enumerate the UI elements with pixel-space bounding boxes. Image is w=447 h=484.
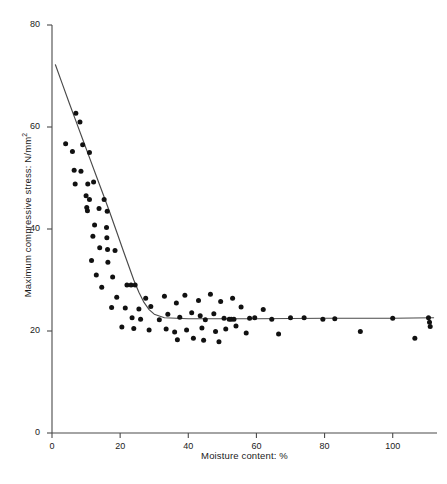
x-tick-label: 40 — [176, 441, 200, 451]
x-tick-label: 80 — [313, 441, 337, 451]
y-tick-label: 20 — [18, 325, 40, 335]
y-tick-label: 0 — [18, 427, 40, 437]
data-points — [63, 111, 433, 344]
x-tick-label: 0 — [40, 441, 64, 451]
fitted-curve — [55, 65, 433, 319]
y-tick-label: 80 — [18, 19, 40, 29]
plot-axes — [52, 25, 437, 433]
y-tick-label: 60 — [18, 121, 40, 131]
scatter-plot-canvas — [0, 0, 447, 484]
x-tick-label: 60 — [244, 441, 268, 451]
y-tick-label: 40 — [18, 223, 40, 233]
x-tick-label: 20 — [108, 441, 132, 451]
axis-ticks — [47, 25, 393, 438]
chart-figure: Maximum compressive stress: N/mm2 Moistu… — [0, 0, 447, 484]
x-tick-label: 100 — [381, 441, 405, 451]
